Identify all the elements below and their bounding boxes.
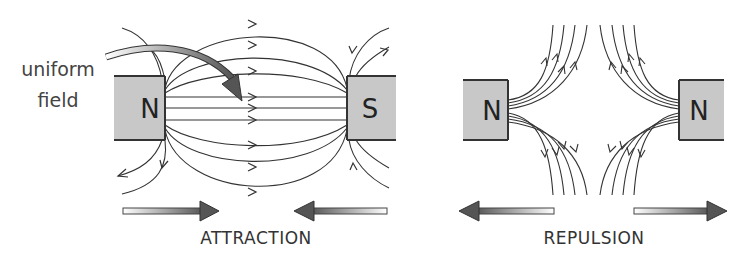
caption-attraction: ATTRACTION: [200, 228, 312, 248]
annotation-uniform: uniform: [21, 58, 95, 80]
attraction-panel: N S uniform field ATTRACTION: [21, 20, 396, 248]
pole-label-n: N: [140, 94, 159, 124]
force-arrow-left: [294, 201, 387, 221]
force-arrow-right: [123, 201, 219, 221]
field-lines-repulsion: [508, 25, 679, 195]
magnetic-field-diagram: N S uniform field ATTRACTION: [0, 0, 754, 275]
pole-label-s: S: [362, 94, 379, 124]
pole-label-n-right: N: [689, 96, 708, 126]
force-arrow-left-repulsion: [459, 201, 554, 221]
pole-label-n-left: N: [482, 96, 501, 126]
repulsion-panel: N N REPULSION: [459, 25, 727, 248]
force-arrow-right-repulsion: [634, 201, 727, 221]
annotation-field: field: [38, 89, 79, 111]
caption-repulsion: REPULSION: [543, 228, 644, 248]
